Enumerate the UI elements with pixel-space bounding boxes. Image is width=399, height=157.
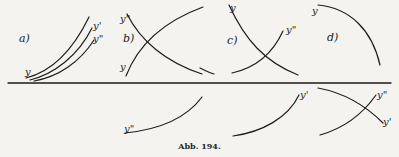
figure-abb-194: a) y y' y" y" b) y y c) y" y d) y" y' y"… [0, 0, 399, 157]
curve-a-y2 [34, 40, 94, 81]
curve-label-a-y: y [25, 67, 31, 77]
curve-lower-middle [233, 95, 299, 136]
curve-label-a-y2: y" [93, 34, 103, 44]
curve-lower-right-descending [318, 88, 383, 123]
curve-c-fragment [200, 68, 214, 74]
panel-label-b: b) [123, 33, 134, 44]
curve-label-b-y: y [120, 62, 126, 72]
curve-label-lower-right-top: y" [377, 90, 387, 100]
figure-caption: Abb. 194. [0, 141, 399, 151]
curve-lower-right-rising [320, 95, 376, 135]
curve-label-d-y: y [312, 6, 318, 16]
curve-b-descending [127, 14, 202, 74]
panel-label-c: c) [227, 35, 237, 46]
panel-label-a: a) [19, 33, 30, 44]
panel-label-d: d) [327, 32, 338, 43]
curve-label-lower-middle: y' [300, 90, 308, 100]
curve-drawing [0, 0, 399, 157]
curve-label-lower-left: y" [124, 124, 134, 134]
curve-label-lower-right-bottom: y' [383, 117, 391, 127]
curve-label-c-y2: y" [286, 25, 296, 35]
curve-lower-left [125, 97, 202, 133]
curve-b-rising [126, 7, 203, 76]
curve-c-rising [232, 31, 283, 73]
curve-label-a-y1: y' [93, 21, 101, 31]
curve-c-descending [229, 5, 298, 75]
curve-label-c-y: y [230, 3, 236, 13]
curve-label-b-y2: y" [120, 14, 130, 24]
